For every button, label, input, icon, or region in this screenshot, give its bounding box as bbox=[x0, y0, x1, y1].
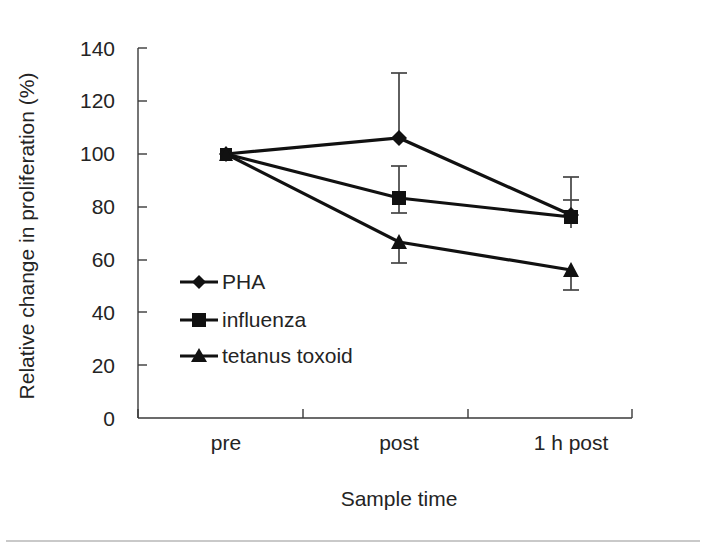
y-tick-label-40: 40 bbox=[92, 301, 115, 324]
legend-label-tetanus-toxoid: tetanus toxoid bbox=[222, 344, 353, 367]
y-tick-label-60: 60 bbox=[92, 248, 115, 271]
y-tick-label-20: 20 bbox=[92, 354, 115, 377]
y-tick-label-80: 80 bbox=[92, 195, 115, 218]
marker-influenza-1hpost bbox=[564, 210, 578, 224]
legend-marker-square-icon bbox=[192, 313, 206, 327]
legend-label-influenza: influenza bbox=[222, 308, 306, 331]
y-axis-title: Relative change in proliferation (%) bbox=[15, 73, 38, 400]
y-tick-label-140: 140 bbox=[80, 37, 115, 60]
x-tick-label-post: post bbox=[379, 431, 419, 454]
chart-background bbox=[0, 0, 706, 546]
x-axis-title: Sample time bbox=[341, 487, 458, 510]
marker-influenza-post bbox=[392, 191, 406, 205]
y-tick-label-0: 0 bbox=[103, 407, 115, 430]
legend-label-pha: PHA bbox=[222, 270, 265, 293]
line-chart-canvas: Relative change in proliferation (%) 140… bbox=[0, 0, 706, 546]
x-tick-label-pre: pre bbox=[211, 431, 241, 454]
x-tick-label-1hpost: 1 h post bbox=[534, 431, 609, 454]
chart-figure: Relative change in proliferation (%) 140… bbox=[0, 0, 706, 546]
y-tick-label-100: 100 bbox=[80, 142, 115, 165]
y-tick-label-120: 120 bbox=[80, 89, 115, 112]
